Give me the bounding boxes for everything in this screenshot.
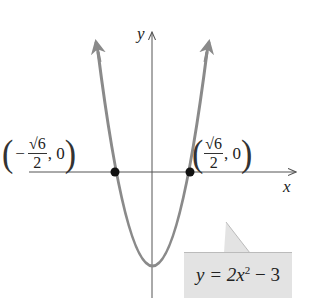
equation-label: y = 2x2 − 3	[184, 264, 292, 286]
left-intercept-point	[111, 168, 120, 177]
y-axis-label: y	[137, 24, 145, 44]
x-axis-label: x	[283, 177, 291, 197]
graph-figure: y x ( − √6 2 , 0 ) ( √6 2 , 0 ) y = 2x2 …	[0, 0, 309, 308]
equation-callout: y = 2x2 − 3	[184, 252, 292, 298]
right-point-label: ( √6 2 , 0 )	[192, 136, 252, 171]
left-point-label: ( − √6 2 , 0 )	[2, 136, 76, 171]
